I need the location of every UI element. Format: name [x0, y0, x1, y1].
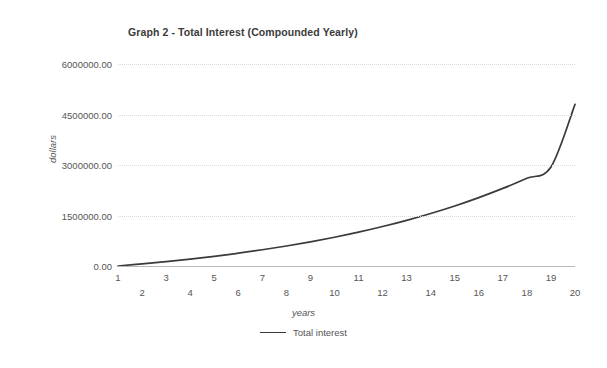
chart-container: Graph 2 - Total Interest (Compounded Yea… — [0, 0, 607, 368]
x-axis-baseline — [118, 266, 575, 267]
x-axis-tick-label: 14 — [420, 287, 442, 298]
x-axis-tick-label: 19 — [540, 272, 562, 283]
legend-label-total-interest: Total interest — [293, 327, 347, 338]
x-axis-tick-label: 9 — [299, 272, 321, 283]
y-axis-tick-label: 3000000.00 — [12, 160, 112, 171]
y-axis-tick-label: 4500000.00 — [12, 109, 112, 120]
chart-legend: Total interest — [0, 327, 607, 338]
x-axis-tick-label: 16 — [468, 287, 490, 298]
x-axis-tick-label: 17 — [492, 272, 514, 283]
x-axis-title: years — [0, 307, 607, 318]
x-axis-tick-label: 13 — [396, 272, 418, 283]
x-axis-tick-label: 4 — [179, 287, 201, 298]
y-axis-tick-label: 0.00 — [12, 261, 112, 272]
x-axis-tick-label: 8 — [275, 287, 297, 298]
gridline — [118, 216, 575, 217]
x-axis-tick-label: 10 — [323, 287, 345, 298]
legend-line-swatch — [260, 332, 286, 333]
y-axis-title: dollars — [47, 135, 58, 163]
gridline — [118, 64, 575, 65]
x-axis-tick-label: 2 — [131, 287, 153, 298]
chart-title: Graph 2 - Total Interest (Compounded Yea… — [128, 26, 358, 38]
x-axis-tick-label: 5 — [203, 272, 225, 283]
x-axis-tick-label: 20 — [564, 287, 586, 298]
x-axis-tick-label: 1 — [107, 272, 129, 283]
gridline — [118, 165, 575, 166]
y-axis-tick-label: 1500000.00 — [12, 210, 112, 221]
x-axis-tick-label: 7 — [251, 272, 273, 283]
x-axis-tick-label: 3 — [155, 272, 177, 283]
y-axis-tick-label: 6000000.00 — [12, 59, 112, 70]
x-axis-tick-label: 18 — [516, 287, 538, 298]
x-axis-tick-label: 11 — [348, 272, 370, 283]
plot-area — [118, 64, 575, 266]
x-axis-tick-label: 6 — [227, 287, 249, 298]
x-axis-tick-label: 15 — [444, 272, 466, 283]
x-axis-tick-label: 12 — [372, 287, 394, 298]
gridline — [118, 115, 575, 116]
